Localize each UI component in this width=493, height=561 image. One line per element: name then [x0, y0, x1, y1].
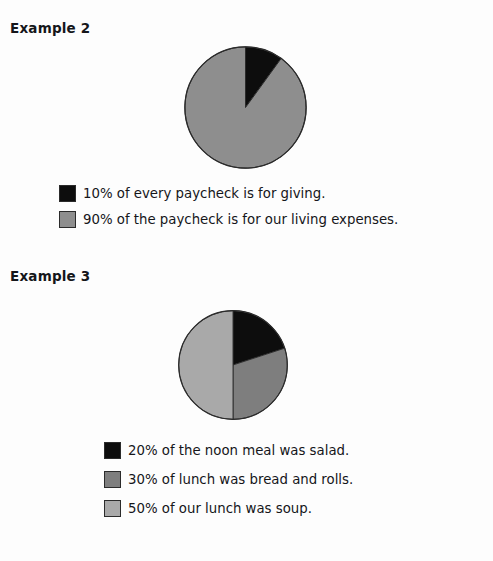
example-3-heading: Example 3 [10, 268, 90, 284]
legend-item: 50% of our lunch was soup. [104, 500, 353, 517]
pie-chart-example-3-svg [177, 305, 289, 425]
legend-item: 20% of the noon meal was salad. [104, 442, 353, 459]
legend-item-label: 10% of every paycheck is for giving. [83, 185, 325, 202]
legend-color-swatch [59, 211, 76, 228]
legend-item: 90% of the paycheck is for our living ex… [59, 211, 398, 228]
legend-example-2: 10% of every paycheck is for giving.90% … [59, 185, 398, 237]
legend-example-3: 20% of the noon meal was salad.30% of lu… [104, 442, 353, 529]
legend-color-swatch [104, 471, 121, 488]
example-2-heading: Example 2 [10, 20, 90, 36]
legend-item: 10% of every paycheck is for giving. [59, 185, 398, 202]
pie-slice [179, 311, 233, 420]
legend-color-swatch [104, 500, 121, 517]
legend-item-label: 50% of our lunch was soup. [128, 500, 312, 517]
legend-item: 30% of lunch was bread and rolls. [104, 471, 353, 488]
legend-color-swatch [59, 185, 76, 202]
pie-chart-example-2 [183, 45, 308, 170]
legend-item-label: 30% of lunch was bread and rolls. [128, 471, 353, 488]
legend-item-label: 90% of the paycheck is for our living ex… [83, 211, 398, 228]
pie-chart-example-3 [177, 305, 289, 425]
legend-item-label: 20% of the noon meal was salad. [128, 442, 349, 459]
legend-color-swatch [104, 442, 121, 459]
pie-chart-example-2-svg [183, 45, 308, 170]
worksheet-page: Example 2 10% of every paycheck is for g… [0, 0, 493, 561]
